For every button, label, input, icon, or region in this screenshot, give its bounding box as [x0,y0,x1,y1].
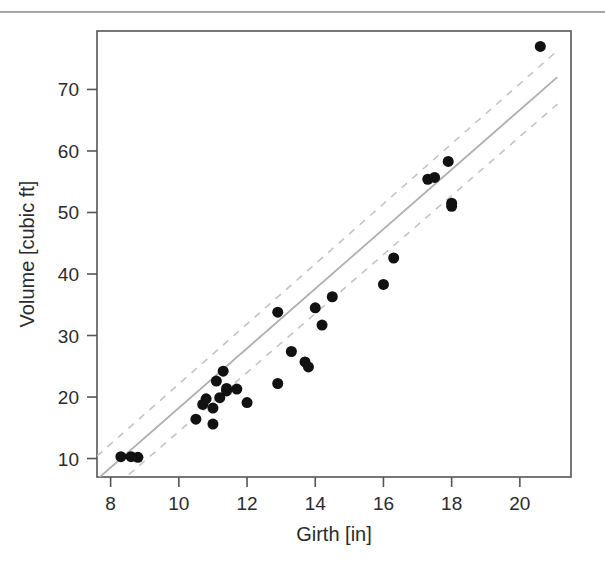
linear-fit [97,77,557,479]
x-tick-label-12: 12 [236,493,257,514]
y-tick-label-60: 60 [58,141,79,162]
y-axis-ticks [87,89,97,458]
data-point [207,419,218,430]
data-point [286,346,297,357]
data-point [190,414,201,425]
data-point [201,393,212,404]
data-point [310,302,321,313]
data-point [446,201,457,212]
data-points [115,41,545,463]
data-point [317,320,328,331]
x-tick-label-18: 18 [441,493,462,514]
plot-frame [97,31,571,477]
data-point [388,252,399,263]
data-point [272,378,283,389]
data-point [535,41,546,52]
x-axis-ticks [111,477,520,487]
y-tick-label-50: 50 [58,202,79,223]
confidence-bands [97,51,557,503]
data-point [207,403,218,414]
page-top-rule [0,11,605,13]
data-point [218,366,229,377]
figure-container: 8101214161820 10203040506070 Girth [in] … [0,0,605,574]
data-point [132,452,143,463]
data-point [221,383,232,394]
data-point [242,397,253,408]
y-tick-label-30: 30 [58,326,79,347]
x-tick-label-20: 20 [509,493,530,514]
x-tick-label-8: 8 [105,493,116,514]
data-point [272,307,283,318]
data-point [115,451,126,462]
x-axis-title: Girth [in] [296,523,372,545]
data-point [429,172,440,183]
data-point [303,361,314,372]
y-axis-title: Volume [cubic ft] [16,181,38,328]
x-tick-label-14: 14 [305,493,327,514]
confidence-band-lower [97,104,557,502]
y-tick-label-10: 10 [58,449,79,470]
data-point [211,376,222,387]
y-tick-label-40: 40 [58,264,79,285]
data-point [327,291,338,302]
x-axis-tick-labels: 8101214161820 [105,493,530,514]
y-axis-tick-labels: 10203040506070 [58,79,79,469]
scatter-plot-svg: 8101214161820 10203040506070 Girth [in] … [0,0,605,574]
y-tick-label-70: 70 [58,79,79,100]
x-tick-label-16: 16 [373,493,394,514]
x-tick-label-10: 10 [168,493,189,514]
regression-line [97,77,557,479]
data-point [231,384,242,395]
data-point [443,156,454,167]
data-point [378,279,389,290]
y-tick-label-20: 20 [58,387,79,408]
confidence-band-upper [97,51,557,456]
